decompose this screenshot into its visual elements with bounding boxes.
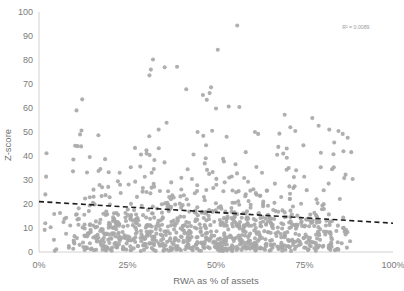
data-point	[195, 247, 199, 251]
data-point-notable	[74, 108, 78, 112]
data-point	[193, 219, 197, 223]
data-point	[133, 146, 137, 150]
data-point	[247, 199, 251, 203]
data-point	[178, 215, 182, 219]
data-point	[261, 204, 265, 208]
data-point	[234, 236, 238, 240]
data-point	[96, 133, 100, 137]
data-point	[112, 211, 116, 215]
data-point	[208, 246, 212, 250]
data-point-notable	[44, 175, 48, 179]
data-point	[258, 194, 262, 198]
data-point-notable	[260, 171, 264, 175]
data-point	[202, 244, 206, 248]
data-point	[166, 189, 170, 193]
data-point	[158, 228, 162, 232]
data-point	[234, 221, 238, 225]
data-point	[246, 180, 250, 184]
data-point	[274, 234, 278, 238]
data-point	[212, 220, 216, 224]
data-point	[121, 230, 125, 234]
data-point	[133, 240, 137, 244]
data-point	[199, 226, 203, 230]
data-point	[92, 195, 96, 199]
data-point	[160, 202, 164, 206]
data-point	[271, 208, 275, 212]
data-point-notable	[283, 113, 287, 117]
data-point	[118, 171, 122, 175]
data-point	[266, 230, 270, 234]
data-point	[173, 202, 177, 206]
data-point	[340, 241, 344, 245]
data-point	[312, 224, 316, 228]
data-point	[175, 221, 179, 225]
data-point	[269, 222, 273, 226]
data-point	[118, 183, 122, 187]
data-point	[72, 240, 76, 244]
data-point	[254, 230, 258, 234]
data-point	[214, 177, 218, 181]
data-point	[288, 192, 292, 196]
data-point	[276, 210, 280, 214]
data-point	[116, 232, 120, 236]
data-point	[228, 246, 232, 250]
data-point-notable	[201, 93, 205, 97]
data-point-notable	[79, 129, 83, 133]
data-point	[273, 182, 277, 186]
data-point	[222, 233, 226, 237]
data-point-notable	[237, 105, 241, 109]
data-point	[54, 247, 58, 251]
data-point	[125, 241, 129, 245]
data-point	[204, 231, 208, 235]
data-point	[322, 188, 326, 192]
data-point	[129, 165, 133, 169]
data-point	[128, 244, 132, 248]
data-point	[144, 226, 148, 230]
data-point	[83, 196, 87, 200]
data-point	[288, 209, 292, 213]
data-point	[299, 242, 303, 246]
data-point	[259, 245, 263, 249]
data-point-notable	[327, 128, 331, 132]
data-point	[173, 239, 177, 243]
data-point-notable	[227, 105, 231, 109]
data-point	[148, 217, 152, 221]
data-point	[219, 207, 223, 211]
data-point	[91, 235, 95, 239]
data-point-notable	[310, 116, 314, 120]
data-point-notable	[341, 132, 345, 136]
data-point	[222, 247, 226, 251]
data-point	[322, 207, 326, 211]
data-point	[279, 221, 283, 225]
data-point	[341, 216, 345, 220]
data-point	[129, 248, 133, 252]
data-point	[81, 240, 85, 244]
data-point	[102, 236, 106, 240]
data-point	[214, 183, 218, 187]
y-tick-60: 60	[23, 103, 33, 113]
data-point	[98, 167, 102, 171]
data-point	[336, 224, 340, 228]
x-tick-25pct: 25%	[118, 260, 136, 270]
data-point	[217, 247, 221, 251]
data-point	[341, 226, 345, 230]
data-point-notable	[317, 124, 321, 128]
data-point	[180, 235, 184, 239]
data-point	[160, 223, 164, 227]
data-point	[136, 244, 140, 248]
data-point	[244, 247, 248, 251]
data-point	[142, 248, 146, 252]
r-squared: R² = 0.0089	[342, 24, 369, 30]
data-point-notable	[76, 144, 80, 148]
data-point	[240, 241, 244, 245]
data-point	[150, 238, 154, 242]
x-tick-50pct: 50%	[207, 260, 225, 270]
data-point	[214, 201, 218, 205]
y-axis-title: Z-score	[2, 129, 13, 161]
data-point	[106, 185, 110, 189]
data-point	[186, 167, 190, 171]
data-point	[303, 224, 307, 228]
data-point	[193, 191, 197, 195]
data-point	[141, 186, 145, 190]
data-point	[261, 200, 265, 204]
